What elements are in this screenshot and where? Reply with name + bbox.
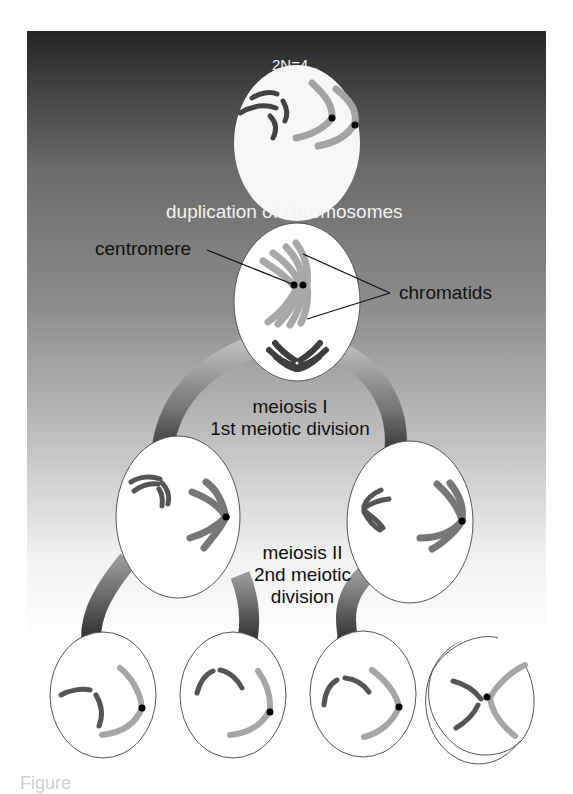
gamete-2 xyxy=(180,632,286,758)
meiosis-2-label: meiosis II 2nd meiotic division xyxy=(240,542,365,608)
parent-cell xyxy=(234,65,360,221)
meiosis-1-daughter-right xyxy=(347,441,473,603)
centromere-label: centromere xyxy=(95,238,191,260)
meiosis-1-subtitle: 1st meiotic division xyxy=(190,418,390,440)
figure-caption: Figure xyxy=(20,773,71,794)
meiosis-1-title: meiosis I xyxy=(190,396,390,418)
meiosis-2-title: meiosis II xyxy=(240,542,365,564)
gamete-4 xyxy=(426,635,535,764)
hidden-ploidy-label: 2N=4 xyxy=(272,56,308,73)
meiosis-2-subtitle-1: 2nd meiotic xyxy=(240,564,365,586)
meiosis-1-daughter-left xyxy=(116,436,240,598)
duplicated-cell xyxy=(234,223,360,381)
meiosis-2-subtitle-2: division xyxy=(240,586,365,608)
gamete-3 xyxy=(310,631,416,757)
chromatids-label: chromatids xyxy=(399,282,492,304)
gamete-1 xyxy=(50,632,156,758)
meiosis-1-label: meiosis I 1st meiotic division xyxy=(190,396,390,440)
duplication-label: duplication of chromosomes xyxy=(166,201,403,223)
